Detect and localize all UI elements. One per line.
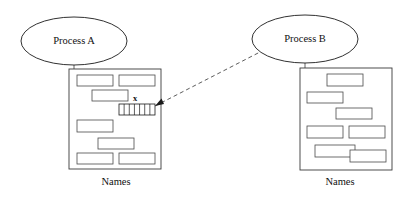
- process-b-label: Process B: [284, 33, 326, 44]
- names-box-b-block: [350, 150, 386, 162]
- hatched-block-x: [119, 104, 155, 115]
- names-box-a-block: [77, 75, 113, 86]
- names-box-b-block: [349, 126, 385, 138]
- names-box-a-block: [98, 138, 134, 149]
- names-box-a-block: [119, 75, 155, 86]
- process-reference-diagram: x Process A Process B Names Names: [0, 0, 410, 198]
- names-box-b-block: [315, 145, 355, 157]
- names-box-b-caption: Names: [325, 176, 354, 187]
- names-box-b-block: [307, 126, 343, 138]
- names-box-b-block: [336, 108, 372, 119]
- process-a-label: Process A: [53, 35, 95, 46]
- dashed-reference-link: [155, 51, 262, 106]
- names-box-a-block: [77, 153, 113, 164]
- names-box-a-block: [119, 153, 155, 164]
- names-box-a-block: [92, 90, 128, 101]
- names-box-b-block: [307, 92, 343, 103]
- diagram-canvas: x Process A Process B Names Names: [0, 0, 410, 198]
- names-box-a-caption: Names: [101, 176, 130, 187]
- names-box-b-block: [327, 74, 363, 86]
- names-box-a-block: [77, 120, 113, 132]
